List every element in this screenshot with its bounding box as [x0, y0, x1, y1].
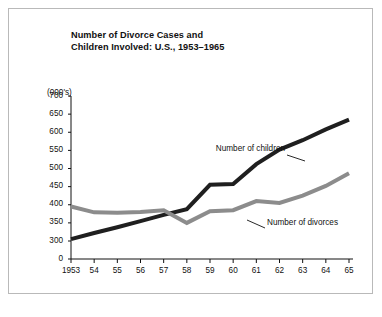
- series-annotation-label: Number of divorces: [267, 218, 338, 227]
- y-axis-tick-label: 650: [39, 109, 63, 118]
- chart-figure: Number of Divorce Cases and Children Inv…: [8, 8, 373, 294]
- axes: [68, 96, 353, 263]
- y-axis-tick-label: 300: [39, 236, 63, 245]
- x-axis-tick-label: 65: [334, 266, 364, 275]
- series-annotation-label: Number of children: [9, 144, 285, 153]
- y-axis-tick-label: 0: [39, 254, 63, 263]
- y-axis-tick-label: 600: [39, 127, 63, 136]
- y-axis-tick-label: 450: [39, 181, 63, 190]
- x-axis-ticks: [71, 259, 349, 263]
- y-axis-tick-label: 700: [39, 91, 63, 100]
- y-axis-tick-label: 400: [39, 199, 63, 208]
- y-axis-tick-label: 500: [39, 163, 63, 172]
- y-axis-tick-label: 350: [39, 217, 63, 226]
